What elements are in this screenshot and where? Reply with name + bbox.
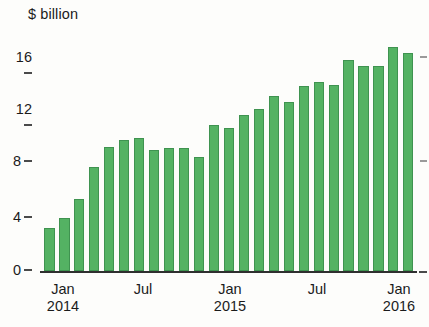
bar-slot	[311, 40, 326, 271]
x-tick-jan-2014-year: 2014	[38, 298, 88, 315]
bar	[104, 147, 114, 271]
bar-slot	[117, 40, 132, 271]
bar	[403, 53, 413, 271]
bar	[149, 150, 159, 271]
bar-slot	[162, 40, 177, 271]
bar-slot	[296, 40, 311, 271]
bar	[239, 115, 249, 271]
bar	[74, 199, 84, 271]
y-tick-12-value: 12	[16, 101, 32, 117]
bar-chart: $ billion 16 12 8 4 0 Jan 2014 Jul Jan 2…	[0, 0, 429, 327]
bar-slot	[87, 40, 102, 271]
bar	[119, 140, 129, 271]
x-tick-jul-2015-label: Jul	[308, 281, 327, 297]
x-axis-line	[40, 271, 417, 273]
y-tick-4-value: 4	[13, 209, 21, 225]
y-tick-8-mark	[24, 160, 32, 162]
bar	[373, 66, 383, 271]
x-tick-jul-2014: Jul	[118, 281, 168, 298]
y-tick-0-value: 0	[13, 262, 21, 278]
bar-slot	[57, 40, 72, 271]
bar-slot	[221, 40, 236, 271]
bar	[269, 96, 279, 271]
x-tick-jan-2015: Jan 2015	[205, 281, 255, 315]
bar-slot	[132, 40, 147, 271]
y-tick-8-value: 8	[13, 153, 21, 169]
right-edge-tick-lower	[420, 160, 427, 162]
x-tick-jan-2016-label: Jan	[387, 281, 410, 297]
bar	[44, 228, 54, 271]
bar	[179, 148, 189, 271]
bar	[209, 125, 219, 271]
bar-slot	[326, 40, 341, 271]
bar-slot	[102, 40, 117, 271]
bar	[343, 60, 353, 271]
x-axis-right-tick	[419, 271, 427, 273]
x-tick-jan-2016-year: 2016	[374, 298, 424, 315]
plot-area	[42, 40, 416, 271]
bar	[314, 82, 324, 271]
bar	[358, 66, 368, 271]
bar	[329, 85, 339, 271]
bar-slot	[177, 40, 192, 271]
bar-slot	[386, 40, 401, 271]
bar	[89, 167, 99, 271]
bar	[59, 218, 69, 271]
bar-slot	[251, 40, 266, 271]
bar	[254, 109, 264, 271]
y-tick-4-mark	[24, 216, 32, 218]
bar	[299, 86, 309, 271]
x-tick-jan-2016: Jan 2016	[374, 281, 424, 315]
bar-slot	[147, 40, 162, 271]
bar-slot	[206, 40, 221, 271]
y-axis-unit-label: $ billion	[28, 6, 78, 22]
bar-series	[42, 40, 416, 271]
x-tick-jan-2014: Jan 2014	[38, 281, 88, 315]
y-tick-4: 4	[6, 209, 32, 225]
x-tick-jul-2014-label: Jul	[134, 281, 153, 297]
bar	[388, 47, 398, 271]
y-tick-12-mark	[24, 124, 32, 126]
bar	[284, 102, 294, 271]
bar	[224, 128, 234, 271]
x-tick-jan-2015-label: Jan	[218, 281, 241, 297]
bar-slot	[281, 40, 296, 271]
x-tick-jan-2015-year: 2015	[205, 298, 255, 315]
bar-slot	[236, 40, 251, 271]
x-tick-jan-2014-label: Jan	[51, 281, 74, 297]
y-tick-16-mark	[24, 72, 32, 74]
bar-slot	[192, 40, 207, 271]
y-tick-16-value: 16	[16, 49, 32, 65]
bar	[164, 148, 174, 271]
y-tick-0-mark	[24, 269, 32, 271]
y-tick-16: 16	[6, 49, 32, 81]
bar	[134, 138, 144, 271]
y-tick-12: 12	[6, 101, 32, 133]
right-edge-tick-upper	[420, 56, 427, 58]
bar-slot	[371, 40, 386, 271]
bar-slot	[72, 40, 87, 271]
bar-slot	[356, 40, 371, 271]
y-tick-0: 0	[6, 262, 32, 278]
bar-slot	[401, 40, 416, 271]
bar-slot	[266, 40, 281, 271]
y-tick-8: 8	[6, 153, 32, 169]
x-tick-jul-2015: Jul	[292, 281, 342, 298]
bar-slot	[341, 40, 356, 271]
bar	[194, 157, 204, 271]
bar-slot	[42, 40, 57, 271]
